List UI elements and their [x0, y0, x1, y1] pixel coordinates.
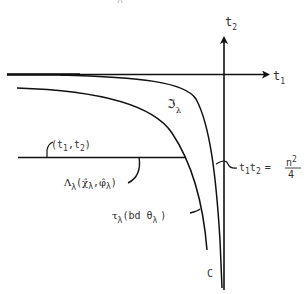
- point-c-label: C: [207, 268, 213, 279]
- tau-pointer: [190, 209, 200, 213]
- curve-label-T: ℑλ: [167, 97, 181, 115]
- lambda-set-label: Λλ(χ̂λ,φ̂λ): [63, 177, 117, 192]
- t1-axis-label: t1: [273, 69, 285, 86]
- hyperbola-numerator: n2: [286, 155, 297, 168]
- diagram: t2 t1 ℑλ (t1,t2) Λλ(χ̂λ,φ̂λ) τλ(bd θλ) t…: [0, 0, 306, 294]
- point-label: (t1,t2): [51, 139, 91, 153]
- t2-axis-label: t2: [225, 15, 237, 32]
- lambda-pointer: [128, 157, 140, 183]
- tau-label: τλ(bd θλ): [112, 210, 166, 225]
- hyperbola-equation: t1t2=: [239, 162, 271, 176]
- hyperbola-pointer: [216, 161, 237, 168]
- hyperbola-denominator: 4: [288, 169, 294, 180]
